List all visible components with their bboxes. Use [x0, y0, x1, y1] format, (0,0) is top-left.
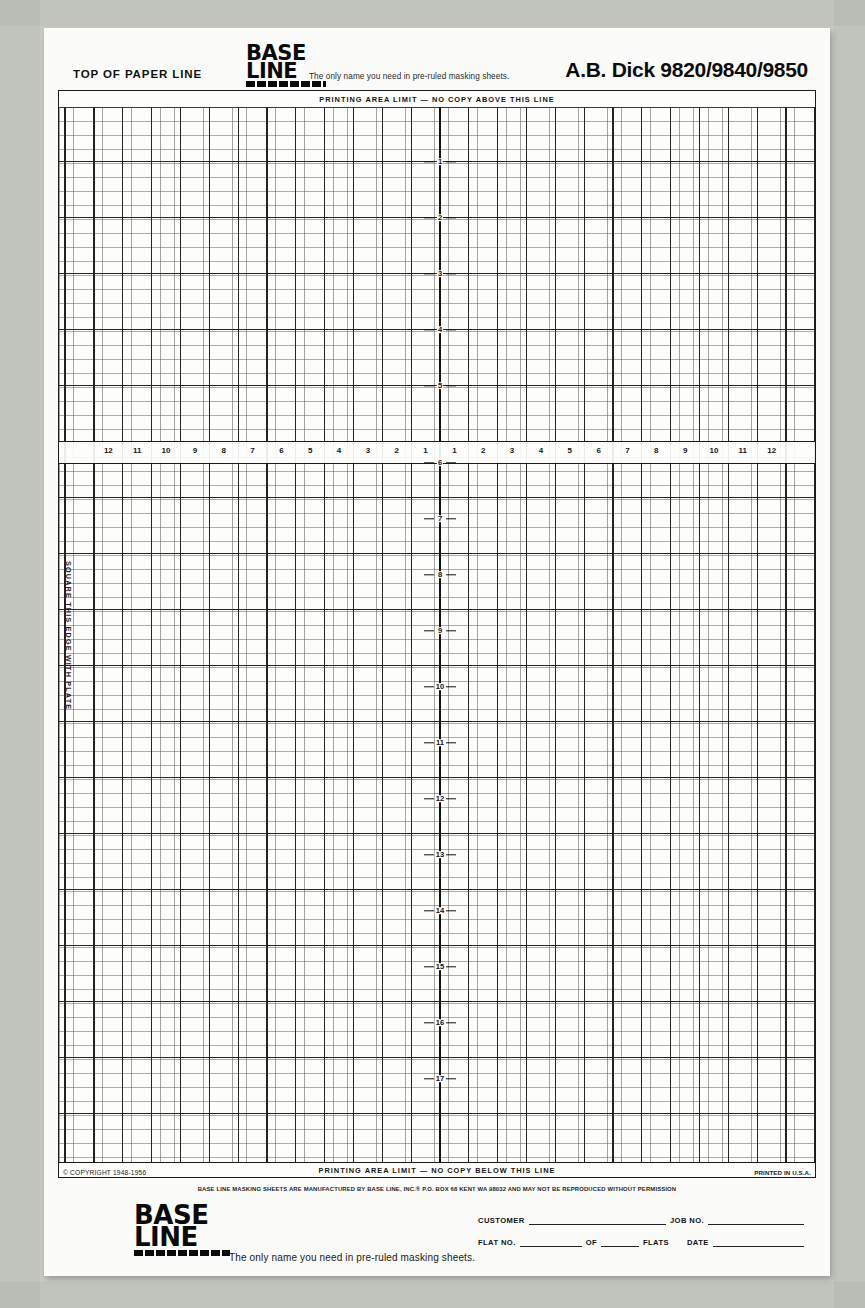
screenshot-root: TOP OF PAPER LINE BASE LINE The only nam…	[0, 0, 865, 1308]
baseline-logo-bar	[134, 1250, 230, 1256]
vruler-tick	[424, 910, 434, 911]
ruler-tick-right-2: 2	[481, 446, 485, 455]
grid-major-hline	[59, 777, 815, 778]
job-form: CUSTOMER JOB NO. FLAT NO. OF FLATS DATE	[478, 1216, 808, 1260]
vruler-tick	[446, 273, 456, 274]
form-row-customer: CUSTOMER JOB NO.	[478, 1216, 808, 1225]
vruler-label-5: 5	[437, 382, 443, 390]
backdrop-band	[834, 0, 865, 1308]
ruler-tick-left-11: 11	[133, 446, 141, 455]
backdrop-band	[0, 0, 40, 1308]
flats-label: FLATS	[643, 1238, 669, 1247]
vruler-label-8: 8	[437, 571, 443, 579]
date-input[interactable]	[713, 1238, 804, 1247]
vruler-label-6: 6	[437, 459, 443, 467]
grid-major-vline	[93, 107, 94, 1163]
vruler-tick	[446, 574, 456, 575]
ruler-tick-right-9: 9	[683, 446, 687, 455]
vruler-tick	[446, 966, 456, 967]
grid-major-vline	[612, 107, 613, 1163]
vruler-label-7: 7	[437, 515, 443, 523]
ruler-tick-left-12: 12	[104, 446, 113, 455]
vruler-label-10: 10	[435, 683, 445, 691]
ruler-tick-right-1: 1	[452, 446, 456, 455]
grid-major-hline	[59, 945, 815, 946]
copyright-notice: © COPYRIGHT 1948-1956	[63, 1169, 146, 1176]
vruler-tick	[424, 273, 434, 274]
vruler-label-14: 14	[435, 907, 445, 915]
vruler-tick	[424, 574, 434, 575]
vruler-tick	[424, 630, 434, 631]
flat-no-label: FLAT NO.	[478, 1238, 516, 1247]
grid-major-vline	[641, 107, 642, 1163]
backdrop-band	[0, 1282, 865, 1308]
printing-limit-bottom-line	[59, 1162, 815, 1163]
grid-major-vline	[238, 107, 239, 1163]
grid-major-vline	[699, 107, 700, 1163]
vruler-tick	[424, 1022, 434, 1023]
printed-in-usa-label: PRINTED IN U.S.A.	[754, 1169, 811, 1176]
grid-major-vline	[180, 107, 181, 1163]
flat-no-input[interactable]	[520, 1238, 582, 1247]
ruler-tick-right-12: 12	[767, 446, 776, 455]
ruler-tick-right-11: 11	[739, 446, 747, 455]
date-label: DATE	[687, 1238, 709, 1247]
ruler-tick-right-5: 5	[568, 446, 572, 455]
vruler-tick	[424, 854, 434, 855]
baseline-logo-footer: BASE LINE	[134, 1204, 230, 1256]
grid-major-hline	[59, 553, 815, 554]
sheet-header: TOP OF PAPER LINE BASE LINE The only nam…	[44, 28, 830, 90]
of-label: OF	[586, 1238, 597, 1247]
grid-major-vline	[814, 107, 815, 1163]
vruler-tick	[446, 1022, 456, 1023]
manufacturer-notice: BASE LINE MASKING SHEETS ARE MANUFACTURE…	[44, 1186, 830, 1192]
grid-major-hline	[59, 889, 815, 890]
grid-major-vline	[324, 107, 325, 1163]
grid-major-vline	[151, 107, 152, 1163]
ruler-tick-right-8: 8	[654, 446, 658, 455]
ruler-tick-right-6: 6	[596, 446, 600, 455]
grid-major-vline	[122, 107, 123, 1163]
masking-sheet: TOP OF PAPER LINE BASE LINE The only nam…	[44, 28, 830, 1276]
grid-major-vline	[353, 107, 354, 1163]
page-title: A.B. Dick 9820/9840/9850	[565, 58, 808, 82]
ruler-tick-left-1: 1	[423, 446, 427, 455]
vruler-label-17: 17	[435, 1075, 445, 1083]
vruler-tick	[446, 742, 456, 743]
grid-major-vline	[266, 107, 267, 1163]
vruler-tick	[446, 518, 456, 519]
printing-limit-top-label: PRINTING AREA LIMIT — NO COPY ABOVE THIS…	[59, 95, 815, 104]
grid-major-vline	[555, 107, 556, 1163]
vruler-label-3: 3	[437, 270, 443, 278]
vruler-tick	[424, 798, 434, 799]
ruler-tick-right-4: 4	[539, 446, 543, 455]
vruler-tick	[446, 217, 456, 218]
grid-major-vline	[468, 107, 469, 1163]
top-of-paper-label: TOP OF PAPER LINE	[73, 68, 202, 80]
vruler-label-1: 1	[437, 158, 443, 166]
job-no-input[interactable]	[708, 1216, 804, 1225]
vruler-tick	[424, 966, 434, 967]
vruler-label-15: 15	[435, 963, 445, 971]
customer-input[interactable]	[529, 1216, 666, 1225]
vruler-tick	[424, 329, 434, 330]
ruler-tick-left-4: 4	[337, 446, 341, 455]
grid-major-vline	[295, 107, 296, 1163]
grid-major-hline	[59, 1113, 815, 1114]
vruler-tick	[424, 385, 434, 386]
vruler-tick	[424, 217, 434, 218]
grid-major-vline	[785, 107, 786, 1163]
grid-major-hline	[59, 833, 815, 834]
vruler-tick	[446, 910, 456, 911]
vruler-tick	[424, 742, 434, 743]
vruler-tick	[424, 161, 434, 162]
of-input[interactable]	[601, 1238, 639, 1247]
vruler-label-9: 9	[437, 627, 443, 635]
ruler-tick-left-10: 10	[162, 446, 171, 455]
grid-frame: PRINTING AREA LIMIT — NO COPY ABOVE THIS…	[58, 90, 816, 1178]
ruler-tick-left-3: 3	[366, 446, 370, 455]
grid-major-vline	[209, 107, 210, 1163]
square-edge-caption: SQUARE THIS EDGE WITH PLATE	[61, 561, 73, 710]
ruler-tick-left-8: 8	[221, 446, 225, 455]
vruler-tick	[446, 1078, 456, 1079]
